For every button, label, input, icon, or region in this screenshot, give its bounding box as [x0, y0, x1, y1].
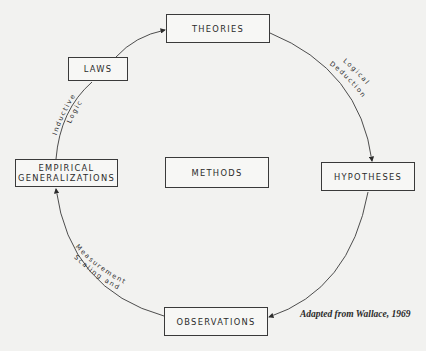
- node-empirical-generalizations: EMPIRICAL GENERALIZATIONS: [15, 159, 118, 187]
- arrow-theories-to-hypotheses: [270, 33, 372, 161]
- arrow-hypotheses-to-observations: [269, 192, 368, 317]
- node-laws-label: LAWS: [84, 64, 113, 74]
- source-credit: Adapted from Wallace, 1969: [300, 309, 410, 319]
- node-theories: THEORIES: [166, 14, 270, 43]
- arrow-laws-to-theories: [116, 30, 165, 57]
- node-hypotheses-label: HYPOTHESES: [334, 172, 402, 182]
- node-methods: METHODS: [165, 157, 269, 188]
- node-empirical-line2: GENERALIZATIONS: [18, 173, 115, 183]
- node-hypotheses: HYPOTHESES: [321, 162, 415, 191]
- node-theories-label: THEORIES: [192, 24, 244, 34]
- node-observations: OBSERVATIONS: [164, 307, 268, 336]
- node-laws: LAWS: [68, 57, 128, 81]
- node-empirical-line1: EMPIRICAL: [39, 163, 95, 173]
- arrow-observations-to-empirical: [56, 189, 164, 316]
- node-methods-label: METHODS: [192, 168, 243, 178]
- node-observations-label: OBSERVATIONS: [176, 317, 255, 327]
